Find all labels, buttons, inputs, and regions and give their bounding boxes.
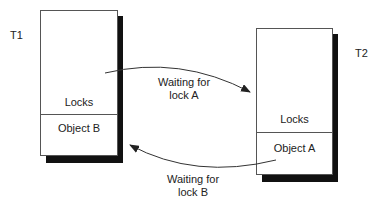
edge-label-lock-a: Waiting for lock A — [148, 76, 220, 102]
arrow-t2-to-t1 — [130, 145, 276, 167]
edge-label-lock-b: Waiting for lock B — [157, 173, 229, 199]
